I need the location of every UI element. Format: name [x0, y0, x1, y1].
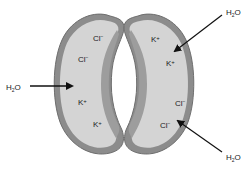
water-label-top-right: H2O [226, 8, 241, 18]
water-label-bottom-right: H2O [226, 153, 241, 163]
water-label-left: H2O [6, 83, 21, 93]
arrow-bottom-right-in [178, 121, 222, 152]
left-guard-cell [54, 14, 124, 154]
guard-cell-diagram: Cl− Cl− K+ K+ K+ K+ Cl− Cl− [0, 0, 248, 173]
